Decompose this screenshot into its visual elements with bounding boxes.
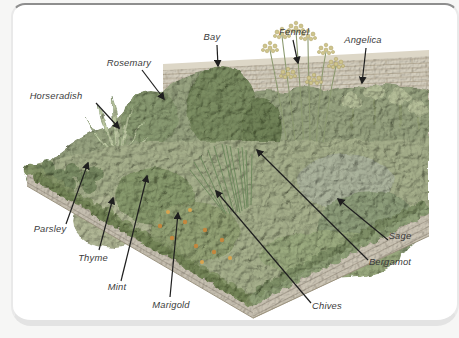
label-thyme: Thyme	[78, 252, 108, 263]
label-angelica: Angelica	[343, 34, 382, 45]
label-marigold: Marigold	[152, 299, 190, 310]
label-sage: Sage	[389, 230, 412, 241]
label-parsley: Parsley	[34, 223, 68, 234]
label-mint: Mint	[108, 281, 127, 292]
label-fennel: Fennel	[279, 26, 310, 37]
label-bergamot: Bergamot	[369, 256, 411, 267]
label-bay: Bay	[204, 31, 222, 42]
label-rosemary: Rosemary	[107, 57, 152, 68]
label-chives: Chives	[312, 300, 342, 311]
label-horseradish: Horseradish	[30, 90, 83, 101]
